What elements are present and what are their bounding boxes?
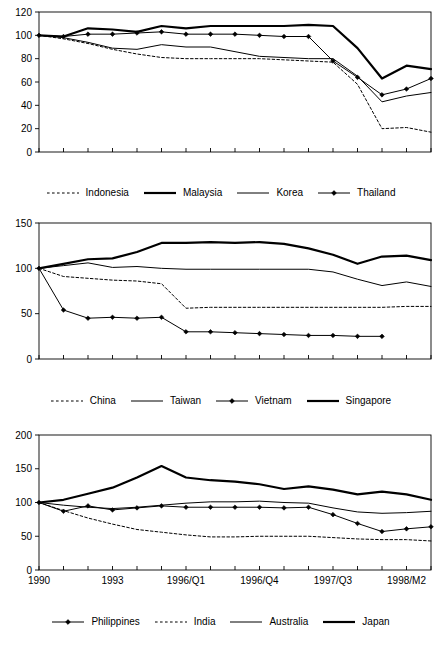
- legend-key-marker: [66, 620, 71, 625]
- series-marker-thailand: [282, 34, 287, 39]
- series-marker-thailand: [159, 30, 164, 35]
- legend-entry-indonesia: Indonesia: [46, 187, 129, 199]
- legend-key-taiwan: [130, 395, 164, 407]
- x-axis-tick-label: 1997/Q3: [314, 575, 353, 586]
- series-marker-philippines: [233, 505, 238, 510]
- x-axis-tick-label: 1996/Q4: [240, 575, 279, 586]
- series-marker-vietnam: [61, 308, 66, 313]
- legend-key-vietnam: [215, 395, 249, 407]
- series-marker-vietnam: [257, 331, 262, 336]
- series-marker-thailand: [37, 33, 42, 38]
- y-axis-tick-label: 150: [15, 463, 32, 474]
- y-axis-tick-label: 0: [26, 565, 32, 576]
- legend-entry-malaysia: Malaysia: [143, 187, 222, 199]
- legend-label: India: [194, 616, 216, 628]
- series-marker-philippines: [355, 521, 360, 526]
- legend-label: Indonesia: [86, 187, 129, 199]
- series-line-indonesia: [39, 35, 431, 132]
- y-axis-tick-label: 60: [21, 77, 33, 88]
- y-axis-tick-label: 100: [15, 30, 32, 41]
- y-axis-tick-label: 100: [15, 263, 32, 274]
- legend-entry-australia: Australia: [229, 616, 308, 628]
- legend-label: Thailand: [357, 187, 395, 199]
- series-marker-philippines: [159, 504, 164, 509]
- legend-label: Australia: [269, 616, 308, 628]
- x-axis-tick-label: 1993: [101, 575, 124, 586]
- series-marker-vietnam: [135, 316, 140, 321]
- y-axis-tick-label: 0: [26, 354, 32, 365]
- series-marker-vietnam: [355, 334, 360, 339]
- legend-label: China: [90, 395, 116, 407]
- series-marker-philippines: [184, 505, 189, 510]
- series-marker-thailand: [184, 32, 189, 37]
- series-marker-vietnam: [86, 316, 91, 321]
- chart-legend-1: IndonesiaMalaysiaKoreaThailand: [0, 182, 441, 204]
- series-marker-philippines: [257, 505, 262, 510]
- series-line-korea: [39, 35, 431, 102]
- series-line-taiwan: [39, 263, 431, 287]
- legend-label: Singapore: [346, 395, 392, 407]
- series-line-thailand: [39, 32, 431, 95]
- legend-entry-philippines: Philippines: [51, 616, 139, 628]
- series-marker-philippines: [331, 512, 336, 517]
- chart-plot-area-3: 050100150200199019931996/Q11996/Q41997/Q…: [0, 425, 441, 610]
- legend-entry-india: India: [154, 616, 216, 628]
- legend-entry-singapore: Singapore: [306, 395, 392, 407]
- y-axis-tick-label: 50: [21, 531, 33, 542]
- y-axis-tick-label: 120: [15, 7, 32, 18]
- series-marker-vietnam: [282, 332, 287, 337]
- line-chart-3: 050100150200199019931996/Q11996/Q41997/Q…: [0, 425, 441, 610]
- chart-panel-3: 050100150200199019931996/Q11996/Q41997/Q…: [0, 425, 441, 645]
- series-marker-thailand: [208, 32, 213, 37]
- y-axis-tick-label: 200: [15, 430, 32, 441]
- series-marker-vietnam: [380, 334, 385, 339]
- chart-legend-3: PhilippinesIndiaAustraliaJapan: [0, 611, 441, 633]
- legend-key-australia: [229, 616, 263, 628]
- legend-key-marker: [230, 399, 235, 404]
- legend-key-indonesia: [46, 187, 80, 199]
- chart-legend-2: ChinaTaiwanVietnamSingapore: [0, 390, 441, 412]
- series-marker-vietnam: [331, 333, 336, 338]
- series-marker-vietnam: [306, 333, 311, 338]
- y-axis-tick-label: 100: [15, 497, 32, 508]
- series-marker-thailand: [233, 32, 238, 37]
- series-marker-philippines: [429, 525, 434, 530]
- legend-entry-thailand: Thailand: [317, 187, 395, 199]
- series-marker-philippines: [135, 506, 140, 511]
- x-axis-tick-label: 1998/M2: [387, 575, 426, 586]
- figure-root: 020406080100120 IndonesiaMalaysiaKoreaTh…: [0, 0, 441, 645]
- series-marker-thailand: [404, 87, 409, 92]
- legend-key-china: [50, 395, 84, 407]
- y-axis-tick-label: 40: [21, 100, 33, 111]
- legend-label: Philippines: [91, 616, 139, 628]
- legend-entry-japan: Japan: [322, 616, 389, 628]
- series-marker-philippines: [306, 505, 311, 510]
- legend-entry-china: China: [50, 395, 116, 407]
- legend-key-korea: [236, 187, 270, 199]
- series-marker-philippines: [208, 505, 213, 510]
- series-marker-philippines: [282, 506, 287, 511]
- series-marker-vietnam: [233, 330, 238, 335]
- series-line-china: [39, 268, 431, 308]
- y-axis-tick-label: 20: [21, 123, 33, 134]
- series-marker-philippines: [380, 529, 385, 534]
- legend-entry-korea: Korea: [236, 187, 303, 199]
- series-marker-thailand: [86, 32, 91, 37]
- x-axis-tick-label: 1990: [28, 575, 51, 586]
- series-marker-vietnam: [159, 315, 164, 320]
- line-chart-1: 020406080100120: [0, 0, 441, 180]
- legend-entry-vietnam: Vietnam: [215, 395, 292, 407]
- legend-key-india: [154, 616, 188, 628]
- plot-frame: [39, 435, 431, 570]
- legend-key-singapore: [306, 395, 340, 407]
- legend-key-marker: [332, 191, 337, 196]
- series-marker-vietnam: [208, 330, 213, 335]
- y-axis-tick-label: 80: [21, 53, 33, 64]
- chart-panel-1: 020406080100120 IndonesiaMalaysiaKoreaTh…: [0, 0, 441, 213]
- y-axis-tick-label: 0: [26, 147, 32, 158]
- chart-plot-area-1: 020406080100120: [0, 0, 441, 180]
- y-axis-tick-label: 150: [15, 218, 32, 229]
- legend-label: Vietnam: [255, 395, 292, 407]
- legend-entry-taiwan: Taiwan: [130, 395, 201, 407]
- y-axis-tick-label: 50: [21, 308, 33, 319]
